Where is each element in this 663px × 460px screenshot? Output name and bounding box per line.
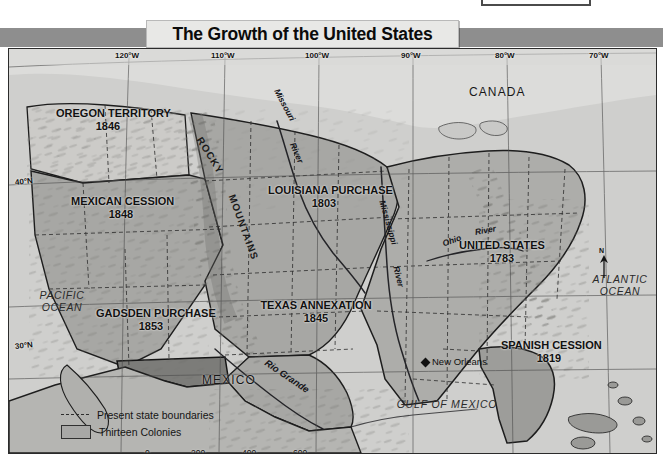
page-title: The Growth of the United States — [172, 24, 432, 45]
map-legend: Present state boundaries Thirteen Coloni… — [61, 406, 214, 440]
historical-map[interactable]: 120°W 110°W 100°W 90°W 80°W 70°W 40°N 30… — [8, 48, 657, 454]
scale-tick-label: 200 — [191, 448, 205, 454]
scale-tick-label: 600 — [293, 448, 307, 454]
north-arrow-icon: N — [596, 249, 612, 279]
legend-item-present-state-boundaries: Present state boundaries — [61, 406, 214, 423]
scale-tick-label: 400 — [242, 448, 256, 454]
map-title-plate: The Growth of the United States — [146, 20, 459, 48]
shaded-box-icon — [61, 425, 91, 439]
scale-tick-label: 0 — [145, 448, 150, 454]
partial-dialog-fragment[interactable] — [481, 0, 591, 6]
legend-label: Thirteen Colonies — [99, 426, 181, 438]
legend-label: Present state boundaries — [97, 409, 214, 421]
screenshot-root: The Growth of the United States — [0, 0, 663, 460]
map-graphic — [9, 49, 656, 453]
dashed-line-icon — [61, 414, 89, 415]
legend-item-thirteen-colonies: Thirteen Colonies — [61, 423, 214, 440]
north-arrow-label: N — [599, 247, 604, 254]
